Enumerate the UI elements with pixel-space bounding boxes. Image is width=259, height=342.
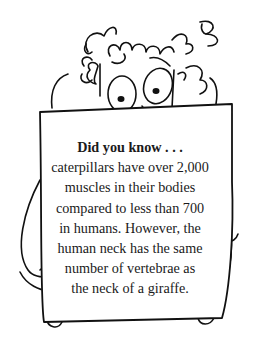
sign-heading: Did you know . . . (42, 137, 218, 157)
sign-line: caterpillars have over 2,000 (42, 157, 218, 177)
sign-text: Did you know . . . caterpillars have ove… (42, 137, 218, 299)
sign-line: human neck has the same (42, 238, 218, 258)
sign-line: muscles in their bodies (42, 177, 218, 197)
sign-line: compared to less than 700 (42, 198, 218, 218)
hair-drawing (82, 21, 217, 66)
eyes-drawing (108, 65, 186, 112)
sign-line: the neck of a giraffe. (42, 278, 218, 298)
sign-line: in humans. However, the (42, 218, 218, 238)
sign-body: caterpillars have over 2,000 muscles in … (42, 157, 218, 298)
sign-line: number of vertebrae as (42, 258, 218, 278)
